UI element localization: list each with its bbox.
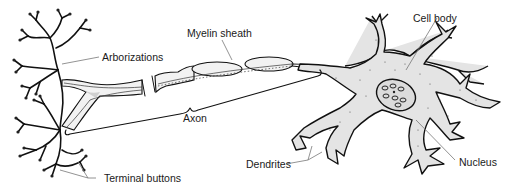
label-terminal-buttons: Terminal buttons	[104, 172, 181, 184]
neuron-diagram: Arborizations Myelin sheath Axon Dendrit…	[0, 0, 513, 192]
axon-branches	[62, 76, 155, 130]
label-myelin-sheath: Myelin sheath	[187, 27, 252, 39]
arborizations	[14, 10, 90, 176]
label-axon: Axon	[183, 112, 207, 124]
label-dendrites: Dendrites	[246, 158, 291, 170]
label-cell-body: Cell body	[413, 12, 458, 24]
label-arborizations: Arborizations	[102, 51, 163, 63]
label-nucleus: Nucleus	[459, 156, 497, 168]
